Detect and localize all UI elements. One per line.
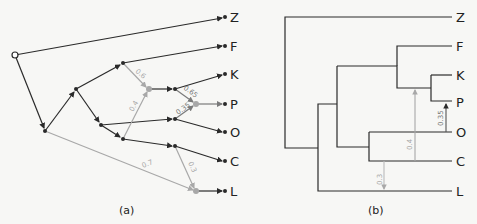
panel-b	[285, 17, 452, 191]
svg-text:C: C	[230, 154, 239, 169]
root-node	[12, 52, 18, 58]
hybrid-nodes	[146, 86, 199, 194]
svg-text:K: K	[456, 68, 465, 83]
svg-text:P: P	[230, 97, 238, 112]
svg-text:L: L	[230, 184, 238, 199]
svg-text:0.4: 0.4	[406, 138, 414, 150]
panel-b-weights: 0.35 0.4 0.3	[376, 110, 445, 185]
svg-text:0.4: 0.4	[128, 99, 141, 113]
figure: Z F K P O C L 0.6 0.4 0.65 0.35 0.7 0.3 …	[0, 0, 477, 224]
svg-text:O: O	[456, 125, 466, 140]
svg-text:0.65: 0.65	[182, 84, 199, 99]
svg-text:F: F	[456, 39, 463, 54]
svg-text:Z: Z	[230, 10, 239, 25]
svg-text:C: C	[456, 154, 465, 169]
svg-text:0.35: 0.35	[175, 101, 192, 116]
svg-text:F: F	[230, 39, 237, 54]
panel-a-weights: 0.6 0.4 0.65 0.35 0.7 0.3	[128, 67, 199, 174]
svg-text:K: K	[230, 67, 239, 82]
svg-text:Z: Z	[456, 10, 465, 25]
panel-b-reticulations	[384, 90, 446, 189]
svg-text:O: O	[230, 125, 240, 140]
svg-text:0.3: 0.3	[376, 174, 384, 185]
caption-a: (a)	[119, 204, 134, 217]
svg-text:0.6: 0.6	[134, 67, 148, 81]
panel-b-leaf-labels: Z F K P O C L	[456, 10, 466, 199]
svg-text:0.7: 0.7	[141, 158, 154, 170]
panel-a-leaf-labels: Z F K P O C L	[230, 10, 240, 199]
svg-text:0.35: 0.35	[437, 110, 445, 126]
svg-text:P: P	[456, 95, 464, 110]
phylogenetic-network-figure: Z F K P O C L 0.6 0.4 0.65 0.35 0.7 0.3 …	[0, 0, 477, 224]
svg-text:0.3: 0.3	[186, 160, 198, 173]
caption-b: (b)	[368, 204, 384, 217]
svg-text:L: L	[456, 184, 464, 199]
reticulate-edges	[45, 63, 194, 190]
